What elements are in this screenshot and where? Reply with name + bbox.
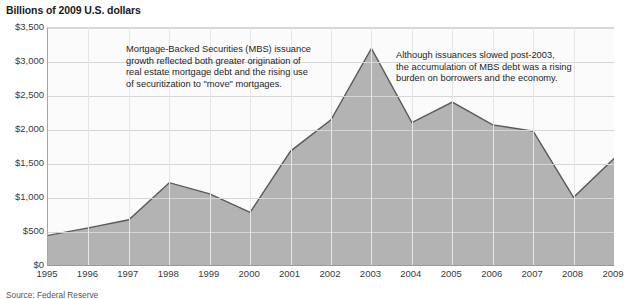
x-axis-tick-1997: 1997 — [117, 268, 138, 279]
x-axis-tick-2007: 2007 — [522, 268, 543, 279]
y-axis-tick-1500: $1,500 — [0, 158, 44, 168]
source-note: Source: Federal Reserve — [6, 291, 98, 299]
chart-figure: Billions of 2009 U.S. dollars $0$500$1,0… — [0, 0, 625, 299]
gridline-x-1996 — [88, 28, 89, 266]
y-axis: $0$500$1,000$1,500$2,000$2,500$3,000$3,5… — [0, 0, 44, 299]
x-axis-tick-2005: 2005 — [441, 268, 462, 279]
y-axis-tick-2500: $2,500 — [0, 90, 44, 100]
x-axis-tick-2003: 2003 — [360, 268, 381, 279]
x-axis-tick-1998: 1998 — [158, 268, 179, 279]
x-axis-tick-1995: 1995 — [36, 268, 57, 279]
x-axis-tick-2009: 2009 — [602, 268, 623, 279]
gridline-x-2003 — [371, 28, 372, 266]
x-axis: 1995199619971998199920002001200220032004… — [0, 268, 625, 282]
y-axis-tick-3500: $3,500 — [0, 22, 44, 32]
x-axis-tick-2002: 2002 — [319, 268, 340, 279]
x-axis-tick-2008: 2008 — [562, 268, 583, 279]
y-axis-tick-3000: $3,000 — [0, 56, 44, 66]
x-axis-tick-2004: 2004 — [400, 268, 421, 279]
y-axis-tick-1000: $1,000 — [0, 192, 44, 202]
x-axis-tick-1999: 1999 — [198, 268, 219, 279]
y-axis-tick-2000: $2,000 — [0, 124, 44, 134]
x-axis-tick-1996: 1996 — [77, 268, 98, 279]
x-axis-tick-2006: 2006 — [481, 268, 502, 279]
x-axis-tick-2000: 2000 — [239, 268, 260, 279]
y-axis-tick-500: $500 — [0, 226, 44, 236]
x-axis-tick-2001: 2001 — [279, 268, 300, 279]
annotation-right: Although issuances slowed post-2003, the… — [396, 50, 611, 85]
x-axis-baseline — [47, 265, 614, 266]
annotation-left: Mortgage-Backed Securities (MBS) issuanc… — [126, 44, 361, 90]
